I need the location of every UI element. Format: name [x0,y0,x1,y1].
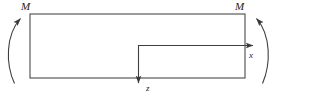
moment-label-left: M [21,1,30,12]
bending-beam-diagram: M M x z [0,0,316,100]
moment-arc-left [8,19,20,84]
diagram-canvas [0,0,316,100]
z-axis-label: z [146,84,150,93]
moment-arc-right [257,19,269,84]
x-axis-label: x [249,51,253,60]
moment-label-right: M [235,1,244,12]
